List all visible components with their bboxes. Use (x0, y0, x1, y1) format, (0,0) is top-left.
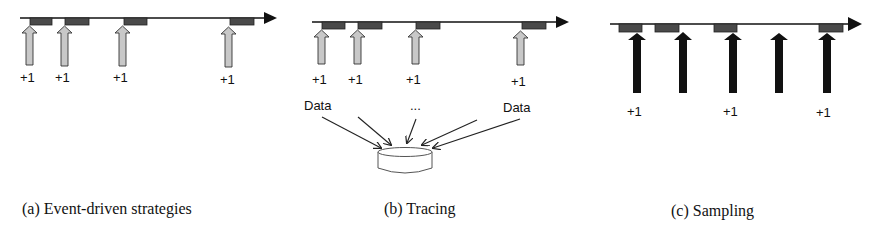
up-arrow-icon (408, 30, 423, 64)
caption-tracing: (b) Tracing (384, 200, 456, 218)
increment-label: +1 (723, 104, 738, 119)
figure-canvas: +1 +1 +1 +1 (a) Event-driven strategies … (0, 0, 879, 244)
event-box (619, 24, 642, 32)
ellipsis-label: ... (410, 98, 421, 113)
timeline-arrowhead-icon (556, 16, 569, 28)
caption-event-driven: (a) Event-driven strategies (22, 200, 192, 218)
event-box (230, 18, 254, 25)
up-arrow-icon (221, 27, 236, 67)
timeline-arrowhead-icon (264, 12, 277, 24)
increment-label: +1 (348, 72, 363, 87)
event-box (65, 18, 89, 25)
caption-sampling: (c) Sampling (671, 202, 754, 220)
panel-event-driven: +1 +1 +1 +1 (a) Event-driven strategies (20, 12, 277, 218)
increment-label: +1 (406, 72, 421, 87)
increment-label: +1 (312, 72, 327, 87)
increment-label: +1 (627, 104, 642, 119)
sample-arrow-icon (724, 33, 742, 93)
data-label-right: Data (503, 100, 531, 115)
increment-label: +1 (113, 70, 128, 85)
event-box (655, 24, 679, 32)
sample-arrow-icon (674, 32, 692, 93)
up-arrow-icon (314, 30, 329, 64)
up-arrow-icon (22, 26, 37, 65)
sample-arrow-icon (770, 33, 788, 93)
data-flow-arrow (322, 117, 381, 148)
panel-tracing: +1 +1 +1 +1 Data ... Data (b) Tracing (304, 16, 569, 218)
up-arrow-icon (350, 30, 365, 64)
data-flow-arrow (422, 120, 477, 145)
event-box (416, 22, 440, 29)
timeline-arrowhead-icon (848, 17, 862, 31)
sample-arrow-icon (818, 33, 836, 93)
data-flow-arrow (358, 117, 391, 145)
event-box (714, 24, 737, 32)
up-arrow-icon (115, 26, 130, 66)
data-flow-arrow (407, 119, 416, 143)
increment-label: +1 (20, 70, 35, 85)
up-arrow-icon (513, 31, 528, 65)
increment-label: +1 (220, 72, 235, 87)
increment-label: +1 (816, 105, 831, 120)
data-label-left: Data (304, 98, 332, 113)
up-arrow-icon (57, 26, 72, 66)
event-box (522, 22, 546, 29)
event-box (30, 18, 52, 25)
increment-label: +1 (55, 70, 70, 85)
event-box (358, 22, 382, 29)
database-cylinder-icon (378, 148, 432, 174)
event-box (322, 22, 345, 29)
event-box (819, 24, 843, 32)
panel-sampling: +1 +1 +1 (c) Sampling (610, 17, 862, 220)
sample-arrow-icon (628, 33, 646, 93)
increment-label: +1 (511, 74, 526, 89)
event-box (124, 18, 147, 25)
